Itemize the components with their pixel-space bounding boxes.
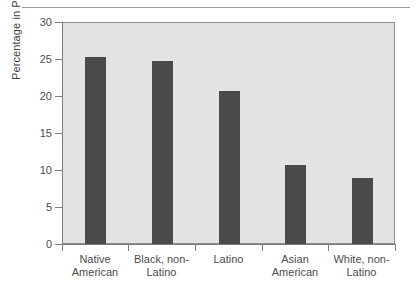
y-tick-label: 5 bbox=[10, 202, 52, 213]
y-axis-title: Percentage in Poverty bbox=[10, 0, 22, 80]
bar-native-american bbox=[85, 57, 106, 244]
bar-chart-figure: Percentage in Poverty 30 25 20 15 10 5 0… bbox=[0, 0, 417, 292]
x-axis-label-asian-american: Asian American bbox=[262, 253, 328, 279]
x-axis-label-latino: Latino bbox=[195, 253, 262, 266]
y-tick-label: 10 bbox=[10, 165, 52, 176]
header-divider bbox=[22, 7, 410, 8]
x-axis-label-line1: Native bbox=[62, 253, 128, 266]
x-axis-label-line1: Black, non- bbox=[128, 253, 195, 266]
y-tick-label: 30 bbox=[10, 17, 52, 28]
x-tick-mark bbox=[62, 245, 63, 251]
y-tick-label: 20 bbox=[10, 91, 52, 102]
x-axis-label-line1: Asian bbox=[262, 253, 328, 266]
y-tick-mark bbox=[55, 133, 62, 134]
x-axis-label-line2: Latino bbox=[328, 266, 395, 279]
x-axis-line bbox=[62, 244, 396, 245]
x-tick-mark bbox=[395, 245, 396, 251]
y-tick-mark bbox=[55, 59, 62, 60]
x-axis-label-line1: Latino bbox=[195, 253, 262, 266]
y-tick-label: 25 bbox=[10, 54, 52, 65]
y-tick-mark bbox=[55, 22, 62, 23]
y-tick-mark bbox=[55, 244, 62, 245]
bar-asian-american bbox=[285, 165, 306, 244]
y-tick-label: 15 bbox=[10, 128, 52, 139]
x-axis-label-line1: White, non- bbox=[328, 253, 395, 266]
bar-white-non-latino bbox=[352, 178, 373, 244]
x-axis-label-white-non-latino: White, non- Latino bbox=[328, 253, 395, 279]
y-axis-line bbox=[62, 22, 63, 245]
bar-black-non-latino bbox=[152, 61, 173, 244]
x-tick-mark bbox=[328, 245, 329, 251]
y-tick-mark bbox=[55, 170, 62, 171]
y-tick-label: 0 bbox=[10, 239, 52, 250]
x-tick-mark bbox=[128, 245, 129, 251]
x-tick-mark bbox=[195, 245, 196, 251]
x-tick-mark bbox=[262, 245, 263, 251]
bar-latino bbox=[219, 91, 240, 244]
x-axis-label-line2: American bbox=[262, 266, 328, 279]
x-axis-label-line2: Latino bbox=[128, 266, 195, 279]
x-axis-label-line2: American bbox=[62, 266, 128, 279]
x-axis-label-native-american: Native American bbox=[62, 253, 128, 279]
y-tick-mark bbox=[55, 207, 62, 208]
y-tick-mark bbox=[55, 96, 62, 97]
x-axis-label-black-non-latino: Black, non- Latino bbox=[128, 253, 195, 279]
